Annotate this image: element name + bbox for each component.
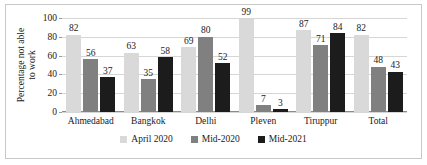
bar-value-label: 63 xyxy=(127,42,137,52)
legend-swatch-icon xyxy=(258,136,265,143)
y-axis-tick-label: 100 xyxy=(43,13,57,23)
legend-item[interactable]: Mid-2020 xyxy=(191,134,240,144)
y-axis-tick-label: 20 xyxy=(48,88,58,98)
bar[interactable] xyxy=(313,45,328,112)
bar-value-label: 7 xyxy=(261,95,266,105)
bar-value-label: 99 xyxy=(242,8,252,18)
x-axis-category-label: Bangkok xyxy=(120,116,178,126)
legend-label: Mid-2020 xyxy=(202,134,240,144)
x-axis-category-label: Ahmedabad xyxy=(62,116,120,126)
bar-group: 824843Total xyxy=(350,18,408,112)
y-axis-title: Percentage not able to work xyxy=(10,5,44,125)
bar[interactable] xyxy=(388,72,403,112)
bar-value-label: 69 xyxy=(184,37,194,47)
legend-swatch-icon xyxy=(120,136,127,143)
y-axis-tick-mark xyxy=(59,112,62,113)
bar[interactable] xyxy=(198,37,213,112)
bar-group: 825637Ahmedabad xyxy=(62,18,120,112)
legend-item[interactable]: April 2020 xyxy=(120,134,172,144)
bar-column[interactable]: 7 xyxy=(256,18,271,112)
bar[interactable] xyxy=(66,35,81,112)
bar-group: 877184Tiruppur xyxy=(292,18,350,112)
bar[interactable] xyxy=(141,79,156,112)
bar[interactable] xyxy=(158,57,173,112)
bar-value-label: 37 xyxy=(103,67,113,77)
bar-column[interactable]: 87 xyxy=(296,18,311,112)
bar-column[interactable]: 63 xyxy=(124,18,139,112)
bar[interactable] xyxy=(371,67,386,112)
chart-legend: April 2020Mid-2020Mid-2021 xyxy=(0,134,427,144)
bar-column[interactable]: 3 xyxy=(273,18,288,112)
bar-value-label: 71 xyxy=(316,35,326,45)
bar-column[interactable]: 82 xyxy=(354,18,369,112)
y-axis-title-line-2: to work xyxy=(27,50,38,79)
bar-column[interactable]: 80 xyxy=(198,18,213,112)
bar-column[interactable]: 56 xyxy=(83,18,98,112)
legend-label: April 2020 xyxy=(131,134,172,144)
bar-group: 9973Pleven xyxy=(235,18,293,112)
bar[interactable] xyxy=(296,30,311,112)
bar-value-label: 43 xyxy=(391,61,401,71)
chart-figure: Percentage not able to work 100806040200… xyxy=(0,0,427,165)
bar[interactable] xyxy=(330,33,345,112)
y-axis-tick-label: 80 xyxy=(48,32,58,42)
bar-column[interactable]: 52 xyxy=(215,18,230,112)
bar[interactable] xyxy=(273,109,288,112)
bar-value-label: 58 xyxy=(161,47,171,57)
x-axis-category-label: Delhi xyxy=(177,116,235,126)
y-axis-tick-label: 60 xyxy=(48,51,58,61)
bar-value-label: 52 xyxy=(218,53,228,63)
bar-column[interactable]: 37 xyxy=(100,18,115,112)
plot-area: 100806040200 825637Ahmedabad633558Bangko… xyxy=(62,18,407,112)
x-axis-category-label: Pleven xyxy=(235,116,293,126)
y-axis-tick-label: 40 xyxy=(48,69,58,79)
bar-column[interactable]: 71 xyxy=(313,18,328,112)
bar[interactable] xyxy=(181,47,196,112)
x-axis-category-label: Total xyxy=(350,116,408,126)
bar-value-label: 82 xyxy=(69,24,79,34)
bar[interactable] xyxy=(354,35,369,112)
bar[interactable] xyxy=(100,77,115,112)
bar-column[interactable]: 84 xyxy=(330,18,345,112)
bar-group: 633558Bangkok xyxy=(120,18,178,112)
bar-column[interactable]: 43 xyxy=(388,18,403,112)
bar[interactable] xyxy=(215,63,230,112)
bar-value-label: 48 xyxy=(374,56,384,66)
x-axis-category-label: Tiruppur xyxy=(292,116,350,126)
y-axis-title-line-1: Percentage not able xyxy=(16,28,27,102)
bar-value-label: 56 xyxy=(86,49,96,59)
bar-value-label: 3 xyxy=(278,99,283,109)
legend-item[interactable]: Mid-2021 xyxy=(258,134,307,144)
gridline xyxy=(62,112,407,113)
bar-value-label: 87 xyxy=(299,20,309,30)
bar-column[interactable]: 99 xyxy=(239,18,254,112)
bar-value-label: 82 xyxy=(357,24,367,34)
bar-column[interactable]: 35 xyxy=(141,18,156,112)
legend-swatch-icon xyxy=(191,136,198,143)
bar-column[interactable]: 58 xyxy=(158,18,173,112)
bar-value-label: 80 xyxy=(201,26,211,36)
bar[interactable] xyxy=(239,19,254,112)
bar[interactable] xyxy=(124,53,139,112)
bar[interactable] xyxy=(83,59,98,112)
bar-value-label: 35 xyxy=(144,69,154,79)
legend-label: Mid-2021 xyxy=(269,134,307,144)
bar[interactable] xyxy=(256,105,271,112)
bar-column[interactable]: 82 xyxy=(66,18,81,112)
bar-group: 698052Delhi xyxy=(177,18,235,112)
bar-column[interactable]: 48 xyxy=(371,18,386,112)
bar-value-label: 84 xyxy=(333,23,343,33)
bar-groups: 825637Ahmedabad633558Bangkok698052Delhi9… xyxy=(62,18,407,112)
bar-column[interactable]: 69 xyxy=(181,18,196,112)
y-axis-tick-label: 0 xyxy=(52,107,57,117)
